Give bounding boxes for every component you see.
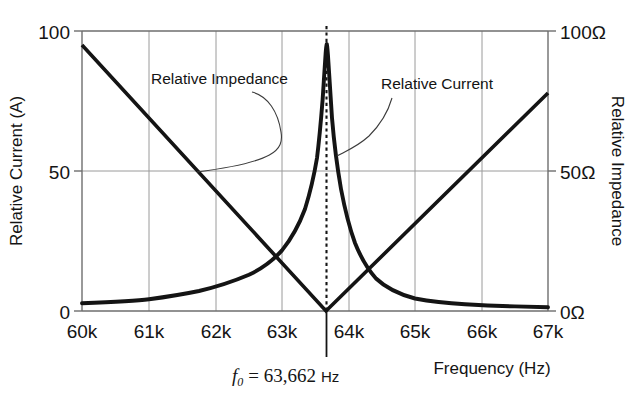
f0-unit: Hz (321, 368, 339, 385)
y-right-tick-label-0: 0Ω (560, 302, 585, 323)
x-tick-label-66k: 66k (467, 321, 498, 342)
x-tick-label-61k: 61k (134, 321, 165, 342)
x-tick-label-67k: 67k (533, 321, 564, 342)
y-right-tick-label-100: 100Ω (560, 22, 606, 43)
y-axis-right-title: Relative Impedance (608, 96, 627, 246)
f0-value: = 63,662 (248, 365, 316, 386)
y-axis-left-title: Relative Current (A) (7, 96, 26, 246)
annotation-relative-current: Relative Current (381, 75, 494, 92)
x-tick-label-60k: 60k (67, 321, 98, 342)
y-left-tick-label-0: 0 (59, 302, 70, 323)
x-tick-label-63k: 63k (267, 321, 298, 342)
x-tick-label-62k: 62k (201, 321, 232, 342)
chart-svg: Relative Impedance Relative Current 100 … (0, 0, 638, 410)
f0-subscript: 0 (237, 375, 243, 389)
y-right-tick-label-50: 50Ω (560, 162, 595, 183)
x-tick-label-64k: 64k (334, 321, 365, 342)
y-left-tick-label-100: 100 (38, 22, 70, 43)
resonance-chart-figure: Relative Impedance Relative Current 100 … (0, 0, 638, 410)
x-axis-title: Frequency (Hz) (433, 359, 550, 378)
annotation-relative-impedance: Relative Impedance (151, 70, 288, 87)
y-left-tick-label-50: 50 (49, 162, 70, 183)
x-tick-label-65k: 65k (400, 321, 431, 342)
